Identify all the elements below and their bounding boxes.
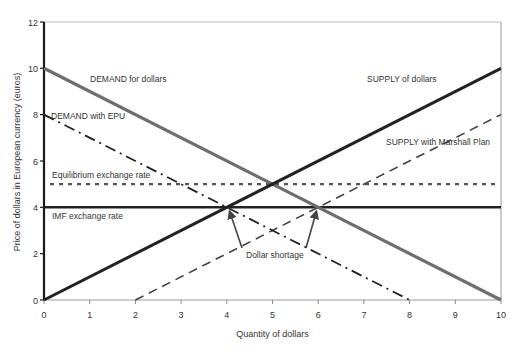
label-demand-epu: DEMAND with EPU bbox=[51, 111, 125, 121]
chart-svg: 0 1 2 3 4 5 6 7 8 9 10 Quantity of dolla… bbox=[0, 0, 518, 352]
x-tick-label: 10 bbox=[496, 310, 506, 320]
y-tick-label: 6 bbox=[33, 157, 38, 167]
y-tick-label: 8 bbox=[33, 110, 38, 120]
x-tick-label: 1 bbox=[87, 310, 92, 320]
y-tick-labels: 0 2 4 6 8 10 12 bbox=[28, 18, 38, 306]
label-dollar-shortage: Dollar shortage bbox=[246, 250, 304, 260]
x-tick-label: 2 bbox=[133, 310, 138, 320]
y-tick-label: 2 bbox=[33, 249, 38, 259]
y-tick-label: 12 bbox=[28, 18, 38, 28]
x-tick-label: 8 bbox=[407, 310, 412, 320]
x-tick-label: 7 bbox=[361, 310, 366, 320]
label-supply-marshall-plan: SUPPLY with Marshall Plan bbox=[386, 137, 490, 147]
label-supply: SUPPLY of dollars bbox=[367, 74, 437, 84]
x-axis-title: Quantity of dollars bbox=[236, 329, 309, 339]
x-tick-label: 6 bbox=[316, 310, 321, 320]
y-tick-label: 10 bbox=[28, 64, 38, 74]
y-axis-title: Price of dollars in European currency (e… bbox=[12, 73, 22, 252]
shortage-arrow-right bbox=[306, 211, 317, 248]
shortage-arrow-left bbox=[230, 211, 243, 248]
x-tick-label: 0 bbox=[41, 310, 46, 320]
x-tick-label: 3 bbox=[179, 310, 184, 320]
chart: 0 1 2 3 4 5 6 7 8 9 10 Quantity of dolla… bbox=[0, 0, 518, 352]
x-tick-label: 9 bbox=[453, 310, 458, 320]
x-tick-label: 5 bbox=[270, 310, 275, 320]
y-tick-label: 0 bbox=[33, 296, 38, 306]
x-axis-ticks bbox=[44, 300, 501, 304]
label-imf-rate: IMF exchange rate bbox=[52, 211, 123, 221]
x-tick-label: 4 bbox=[224, 310, 229, 320]
y-tick-label: 4 bbox=[33, 203, 38, 213]
label-equilibrium-rate: Equilibrium exchange rate bbox=[52, 170, 151, 180]
label-demand: DEMAND for dollars bbox=[90, 74, 167, 84]
x-tick-labels: 0 1 2 3 4 5 6 7 8 9 10 bbox=[41, 310, 506, 320]
